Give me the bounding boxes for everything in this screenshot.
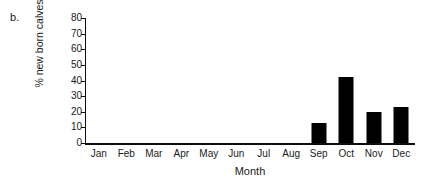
bar-slot (360, 18, 388, 143)
x-tick-label: Jul (250, 148, 278, 160)
x-tick-label: Aug (278, 148, 306, 160)
bar-slot (278, 18, 306, 143)
y-tick-label: 80 (71, 12, 82, 23)
y-tick-label: 40 (71, 75, 82, 86)
x-tick-label: Apr (168, 148, 196, 160)
y-tick-label: 0 (76, 137, 82, 148)
x-tick-label: Jun (223, 148, 251, 160)
bar-slot (305, 18, 333, 143)
bar-slot (85, 18, 113, 143)
x-tick-label: Sep (305, 148, 333, 160)
bar-slot (195, 18, 223, 143)
y-axis-title: % new born calves (34, 0, 45, 109)
bar (394, 107, 409, 143)
y-tick-label: 60 (71, 43, 82, 54)
y-tick-label: 20 (71, 106, 82, 117)
y-tick-label: 70 (71, 28, 82, 39)
bar (366, 112, 381, 143)
y-tick-label: 10 (71, 121, 82, 132)
bar-slot (333, 18, 361, 143)
bar-slot (250, 18, 278, 143)
x-tick-label: Feb (113, 148, 141, 160)
bar (311, 123, 326, 143)
x-tick-label: Dec (388, 148, 416, 160)
y-tick-label: 50 (71, 59, 82, 70)
x-axis-title: Month (85, 165, 415, 178)
bar-slot (113, 18, 141, 143)
x-axis-tick-labels: JanFebMarAprMayJunJulAugSepOctNovDec (85, 148, 415, 162)
x-tick-label: Mar (140, 148, 168, 160)
bar-series (85, 18, 415, 143)
x-tick-label: Nov (360, 148, 388, 160)
bar-slot (388, 18, 416, 143)
x-axis-line (85, 143, 415, 145)
x-tick-label: Jan (85, 148, 113, 160)
bar-slot (223, 18, 251, 143)
bar-slot (168, 18, 196, 143)
plot-area: 01020304050607080 (85, 18, 415, 143)
x-tick-label: May (195, 148, 223, 160)
bar (339, 77, 354, 143)
figure-panel: b. % new born calves 01020304050607080 J… (0, 0, 427, 185)
x-tick-label: Oct (333, 148, 361, 160)
y-tick-label: 30 (71, 90, 82, 101)
bar-slot (140, 18, 168, 143)
panel-label: b. (10, 12, 20, 23)
